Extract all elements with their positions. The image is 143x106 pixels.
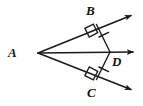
vertex-label-a: A — [8, 46, 17, 59]
ray-ad-line — [38, 52, 133, 53]
vertex-label-c: C — [87, 86, 96, 99]
segment-dc-line — [97, 52, 111, 80]
right-angle-marker-b — [85, 24, 98, 37]
ray-ab — [38, 16, 131, 54]
right-angle-square-b — [85, 24, 98, 37]
vertex-label-d: D — [112, 55, 121, 68]
segment-db — [97, 25, 111, 53]
geometry-figure: A B D C — [0, 0, 143, 106]
geometry-canvas — [0, 0, 143, 106]
vertex-label-b: B — [86, 4, 95, 17]
segment-dc — [97, 52, 111, 80]
segment-db-line — [97, 25, 111, 53]
ray-ab-line — [38, 16, 131, 54]
ray-ad — [38, 52, 133, 53]
